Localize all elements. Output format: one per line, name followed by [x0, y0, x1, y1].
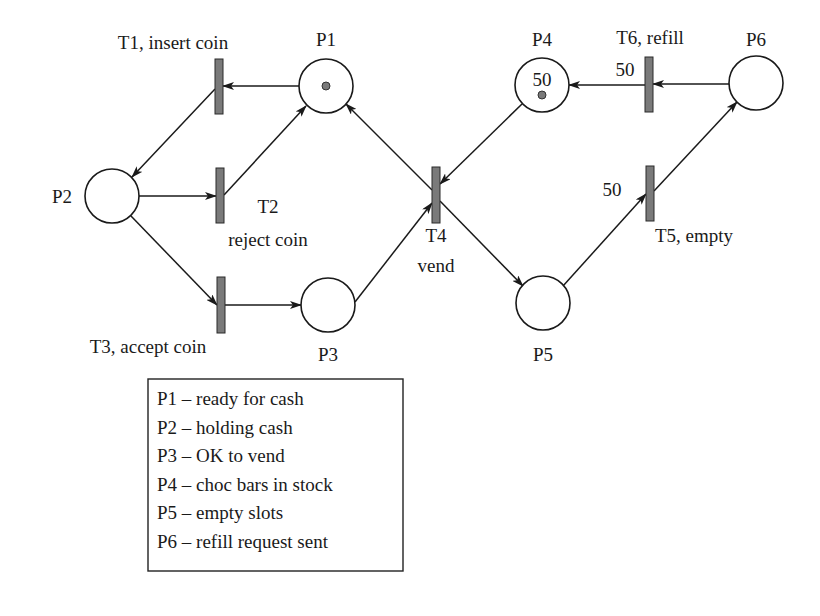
transition-t5 [646, 166, 654, 221]
place-label: P6 [746, 29, 766, 50]
place-label: P2 [52, 186, 72, 207]
transition-t2 [216, 168, 224, 223]
arc-p3-to-t4 [355, 203, 432, 302]
arc-p2-to-t3 [131, 216, 217, 305]
transition-label: T6, refill [616, 27, 684, 48]
arc-t1-to-p2 [132, 89, 215, 177]
transition-label: T1, insert coin [118, 32, 229, 53]
place-p3: P3 [301, 278, 355, 365]
transition-t3 [217, 277, 225, 333]
place-p2: P2 [52, 169, 139, 223]
legend-item: P3 – OK to vend [157, 445, 285, 466]
place-label: P4 [532, 29, 553, 50]
place-p4: 50P4 [515, 29, 569, 112]
transition-label: T3, accept coin [90, 336, 207, 357]
place-circle [85, 169, 139, 223]
transition-t4 [432, 167, 440, 223]
places-layer: P1P2P350P4P5P6 [52, 29, 783, 365]
transition-t6 [645, 57, 653, 112]
place-p6: P6 [729, 29, 783, 110]
legend-item: P4 – choc bars in stock [157, 474, 333, 495]
arc-t4-to-p1 [346, 104, 432, 190]
place-p5: P5 [516, 276, 570, 365]
arc-t2-to-p1 [224, 106, 306, 195]
arc-p4-to-t4 [440, 104, 522, 184]
arc-weight-label: 50 [616, 59, 635, 80]
petri-net-diagram: P1P2P350P4P5P6 T1, insert coinT2reject c… [0, 0, 820, 616]
token [322, 82, 330, 90]
transitions-layer [215, 57, 654, 333]
arc-p5-to-t5 [563, 194, 646, 286]
place-circle [516, 276, 570, 330]
legend-item: P2 – holding cash [157, 417, 293, 438]
place-p1: P1 [299, 29, 353, 113]
place-label: P1 [316, 29, 336, 50]
arc-weight-label: 50 [603, 179, 622, 200]
legend-item: P5 – empty slots [157, 502, 283, 523]
transition-label: reject coin [228, 229, 308, 250]
place-label: P5 [533, 344, 553, 365]
place-label: P3 [318, 344, 338, 365]
transition-label: T2 [257, 196, 278, 217]
token [538, 91, 546, 99]
legend: P1 – ready for cashP2 – holding cashP3 –… [148, 379, 403, 571]
arc-t5-to-p6 [654, 102, 737, 191]
transition-label: T4 [425, 225, 447, 246]
transition-label: vend [418, 255, 455, 276]
transition-label: T5, empty [655, 225, 734, 246]
legend-item: P6 – refill request sent [157, 531, 329, 552]
place-circle [301, 278, 355, 332]
labels-layer: T1, insert coinT2reject coinT3, accept c… [90, 27, 734, 357]
place-circle [729, 56, 783, 110]
legend-item: P1 – ready for cash [157, 388, 304, 409]
transition-t1 [215, 59, 223, 114]
place-capacity: 50 [533, 69, 552, 90]
